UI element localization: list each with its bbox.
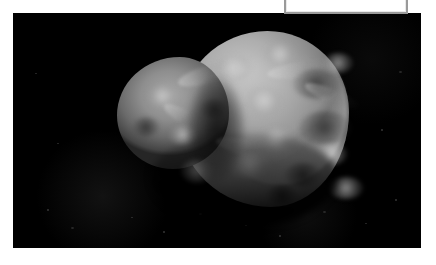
nucleus-crater [133,117,159,137]
nucleus-crater [299,111,351,145]
comet-nucleus-photo [13,13,421,248]
starfield-speck [131,217,133,218]
starfield-speck [395,199,397,201]
starfield-speck [57,143,59,144]
starfield-speck [35,73,37,74]
nucleus-crater [245,87,283,115]
nucleus-terminator-shadow [151,133,337,227]
starfield-speck [163,231,165,233]
starfield-speck [47,209,49,211]
starfield-speck [279,235,281,237]
starfield-speck [71,227,74,229]
starfield-speck [365,223,367,224]
page-root [0,0,436,265]
starfield-speck [399,71,402,73]
bracket-inner-stroke [286,0,406,12]
nucleus-crater [263,43,297,65]
nucleus-body [117,25,349,217]
starfield-speck [381,129,383,131]
bracket-annotation[interactable] [284,0,408,14]
